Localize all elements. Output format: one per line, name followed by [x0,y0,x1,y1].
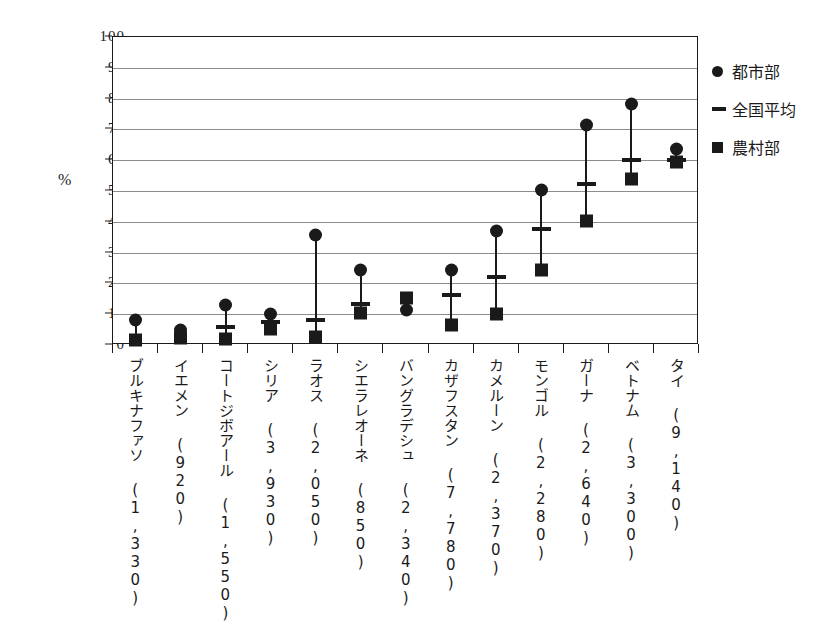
x-axis-category-label: シエラレオーネ (850) [352,358,367,571]
national-average-marker [306,318,325,322]
rural-marker [625,172,638,185]
x-axis-category-label: イエメン (920) [172,358,187,526]
rural-marker [670,156,683,169]
legend: 都市部全国平均農村部 [712,52,824,166]
legend-circle-icon [712,66,730,77]
legend-square-icon [712,142,730,153]
x-axis-tick-mark [563,344,564,353]
x-axis-category-label: タイ (9,140) [668,358,683,532]
y-axis-tick-mark [105,344,112,345]
urban-marker [445,264,458,277]
gridline [113,68,697,69]
x-axis-category-label: シリア (3,930) [262,358,277,547]
plot-area [112,36,698,344]
y-axis-tick-mark [105,313,112,314]
gridline [113,129,697,130]
x-axis-tick-mark [518,344,519,353]
y-axis-tick-mark [105,190,112,191]
rural-marker [580,214,593,227]
x-axis-tick-mark [337,344,338,353]
national-average-marker [487,275,506,279]
x-axis-category-label: ブルキナファソ (1,330) [127,358,142,607]
y-axis-tick-mark [105,128,112,129]
rural-marker [309,331,322,344]
x-axis-tick-mark [428,344,429,353]
urban-marker [490,225,503,238]
y-axis-tick-mark [105,220,112,221]
y-axis-tick-mark [105,36,112,37]
urban-marker [400,303,413,316]
national-average-marker [216,325,235,329]
legend-item: 全国平均 [712,90,824,128]
x-axis-tick-mark [698,344,699,353]
x-axis-tick-mark [157,344,158,353]
urban-marker [219,298,232,311]
legend-item-label: 農村部 [732,135,780,159]
y-axis-tick-mark [105,97,112,98]
range-connector-line [315,235,317,338]
urban-marker [670,143,683,156]
x-axis-category-label: モンゴル (2,280) [533,358,548,562]
x-axis-category-label: コートジボアール (1,550) [217,358,232,622]
x-axis-category-label: ベトナム (3,300) [623,358,638,562]
legend-item: 都市部 [712,52,824,90]
gridline [113,222,697,223]
range-connector-line [630,104,632,179]
x-axis-category-label: ガーナ (2,640) [578,358,593,547]
national-average-marker [577,182,596,186]
legend-dash-icon [712,107,730,111]
y-axis-tick-mark [105,159,112,160]
x-axis-category-label: カメルーン (2,370) [487,358,502,577]
urban-marker [174,323,187,336]
rural-marker [535,263,548,276]
x-axis-tick-mark [473,344,474,353]
y-axis-tick-mark [105,282,112,283]
urban-marker [535,184,548,197]
y-axis-tick-mark [105,251,112,252]
rural-marker [264,322,277,335]
x-axis-category-label: カザフスタン (7,780) [442,358,457,592]
rural-marker [354,306,367,319]
x-axis-tick-mark [382,344,383,353]
x-axis-tick-mark [292,344,293,353]
range-connector-line [450,270,452,325]
x-axis-tick-mark [608,344,609,353]
urban-marker [580,118,593,131]
x-axis-category-label: バングラデシュ (2,340) [397,358,412,607]
national-average-marker [532,227,551,231]
y-axis-tick-mark [105,66,112,67]
range-connector-line [585,125,587,221]
rural-marker [129,334,142,347]
x-axis-tick-mark [112,344,113,353]
rural-marker [445,318,458,331]
legend-item-label: 都市部 [732,59,780,83]
gridline [113,191,697,192]
rural-marker [490,308,503,321]
urban-marker [129,314,142,327]
gridline [113,99,697,100]
urban-marker [354,264,367,277]
x-axis-category-label: ラオス (2,050) [307,358,322,547]
rural-marker [219,333,232,346]
urban-marker [309,228,322,241]
urban-marker [625,97,638,110]
range-connector-line [495,231,497,314]
national-average-marker [622,158,641,162]
x-axis-tick-mark [247,344,248,353]
x-axis-tick-mark [202,344,203,353]
gridline [113,160,697,161]
legend-item-label: 全国平均 [732,97,796,121]
y-axis-unit-label: % [58,171,71,189]
gridline [113,283,697,284]
legend-item: 農村部 [712,128,824,166]
x-axis-tick-mark [653,344,654,353]
gridline [113,253,697,254]
national-average-marker [442,293,461,297]
urban-marker [264,308,277,321]
